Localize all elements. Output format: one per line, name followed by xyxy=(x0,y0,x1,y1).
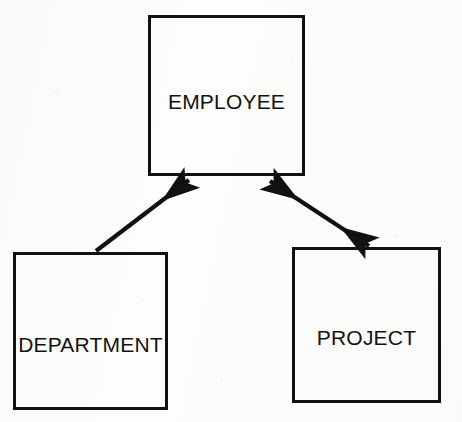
entity-box-project[interactable]: PROJECT xyxy=(292,247,441,403)
entity-box-employee[interactable]: EMPLOYEE xyxy=(148,15,305,176)
entity-box-department[interactable]: DEPARTMENT xyxy=(13,252,168,410)
diagram-canvas: EMPLOYEE DEPARTMENT PROJECT xyxy=(0,0,462,422)
entity-label-project: PROJECT xyxy=(317,326,416,350)
connector-department-to-employee xyxy=(96,180,189,251)
entity-label-employee: EMPLOYEE xyxy=(168,90,285,114)
connector-employee-project xyxy=(270,181,369,246)
entity-label-department: DEPARTMENT xyxy=(18,333,163,357)
